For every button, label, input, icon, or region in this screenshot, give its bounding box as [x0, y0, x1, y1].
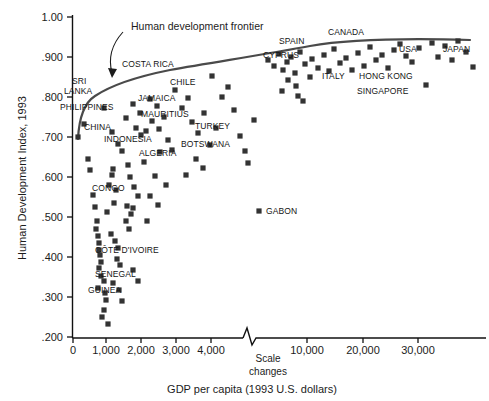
point-label: CHINA — [84, 122, 111, 132]
scale-changes-line1: Scale — [255, 353, 280, 364]
frontier-annotation-text: Human development frontier — [131, 20, 264, 32]
data-point — [302, 61, 307, 66]
data-point — [385, 65, 390, 70]
point-label: GABON — [266, 206, 297, 216]
data-point — [109, 172, 114, 177]
point-label: CANADA — [328, 27, 364, 37]
data-point — [367, 44, 372, 49]
point-label: HONG KONG — [359, 71, 413, 81]
data-point — [99, 314, 104, 319]
data-point — [101, 307, 106, 312]
data-point — [293, 83, 298, 88]
data-point — [123, 218, 128, 223]
point-label: BOTSWANA — [181, 139, 230, 149]
data-point — [435, 54, 440, 59]
point-label: ALGERIA — [139, 148, 177, 158]
data-point — [307, 74, 312, 79]
x-tick-label-2: 2,000 — [127, 344, 155, 356]
data-point — [349, 67, 354, 72]
data-point — [92, 204, 97, 209]
data-point — [279, 88, 284, 93]
point-label: COSTA RICA — [122, 59, 174, 69]
data-point — [292, 70, 297, 75]
data-point — [154, 103, 159, 108]
data-point — [337, 60, 342, 65]
data-point — [112, 238, 117, 243]
point-label: USA — [399, 44, 417, 54]
data-point — [403, 53, 408, 58]
data-point — [219, 94, 224, 99]
data-point — [95, 233, 100, 238]
data-point — [373, 57, 378, 62]
data-point — [125, 162, 130, 167]
data-point — [127, 174, 132, 179]
data-point — [104, 209, 109, 214]
data-point — [155, 202, 160, 207]
data-point — [309, 56, 314, 61]
data-point — [193, 156, 198, 161]
data-point — [90, 192, 95, 197]
data-point — [231, 107, 236, 112]
point-label: INDONESIA — [104, 134, 152, 144]
data-point — [379, 52, 384, 57]
data-point — [163, 182, 168, 187]
data-point — [149, 118, 154, 123]
point-label: SENEGAL — [95, 269, 136, 279]
point-label: CYPRUS — [263, 50, 299, 60]
point-label: TURKEY — [195, 121, 230, 131]
data-point — [144, 218, 149, 223]
data-point — [331, 46, 336, 51]
data-point — [119, 298, 124, 303]
x-tick-label-0: 0 — [70, 344, 76, 356]
data-point — [195, 130, 200, 135]
data-point — [117, 262, 122, 267]
data-point — [256, 208, 261, 213]
x-tick-label-3: 3,000 — [162, 344, 190, 356]
data-point — [321, 52, 326, 57]
data-point — [271, 63, 276, 68]
point-label: JAMAICA — [138, 93, 176, 103]
data-point — [185, 95, 190, 100]
data-point — [172, 87, 177, 92]
y-tick-label-8: .200 — [42, 331, 63, 343]
data-point — [201, 110, 206, 115]
y-tick-label-1: .900 — [42, 51, 63, 63]
data-point — [183, 172, 188, 177]
data-point — [111, 200, 116, 205]
data-point — [295, 93, 300, 98]
data-point — [285, 77, 290, 82]
point-label: JAPAN — [443, 44, 470, 54]
data-point — [75, 134, 80, 139]
data-point — [124, 203, 129, 208]
scatter-plot-svg: 1.00.900.800.700.600.500.400.300.200 01,… — [0, 0, 489, 401]
data-point — [189, 119, 194, 124]
y-axis-title: Human Development Index, 1993 — [16, 96, 28, 260]
y-tick-label-7: .300 — [42, 291, 63, 303]
data-point — [98, 259, 103, 264]
data-point — [133, 125, 138, 130]
data-point — [355, 50, 360, 55]
point-label: PHILIPPINES — [60, 102, 114, 112]
point-label: GUINEA — [88, 285, 121, 295]
y-tick-label-3: .700 — [42, 131, 63, 143]
x-axis-title: GDP per capita (1993 U.S. dollars) — [167, 383, 337, 395]
data-point — [237, 133, 242, 138]
data-point — [110, 166, 115, 171]
x-tick-label-7: 30,000 — [401, 344, 435, 356]
data-point — [135, 193, 140, 198]
data-point — [242, 148, 247, 153]
point-label: CHILE — [170, 77, 196, 87]
data-point — [114, 256, 119, 261]
data-point — [343, 55, 348, 60]
chart-figure: 1.00.900.800.700.600.500.400.300.200 01,… — [0, 0, 489, 401]
data-point — [165, 137, 170, 142]
data-point — [251, 117, 256, 122]
data-point — [143, 128, 148, 133]
point-label: ITALY — [322, 71, 345, 81]
data-point — [108, 231, 113, 236]
data-point — [101, 278, 106, 283]
data-point — [93, 226, 98, 231]
data-point — [225, 84, 230, 89]
y-tick-label-6: .400 — [42, 251, 63, 263]
data-point — [280, 67, 285, 72]
